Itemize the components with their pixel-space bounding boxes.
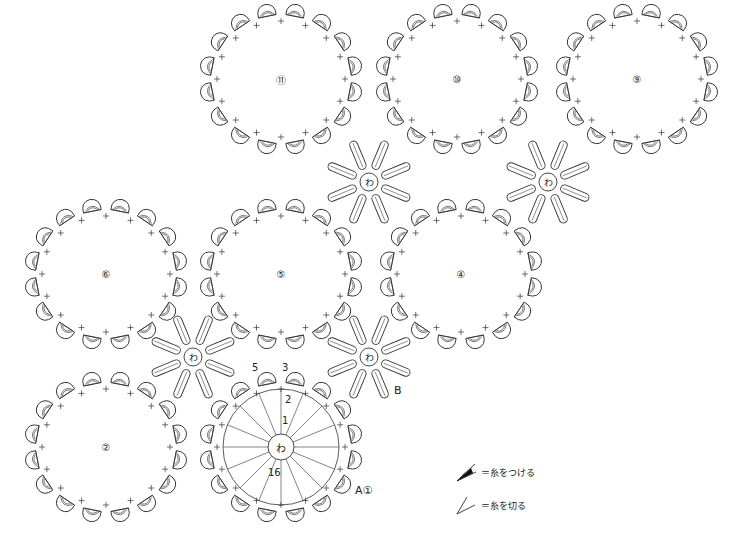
legend-cut-yarn: ＝糸を切る [455,495,526,515]
motif-label-2: ② [102,442,111,453]
motif-label-5: ⑤ [277,269,286,280]
motif-label-9: ⑨ [633,74,642,85]
round-number-1: 1 [282,415,288,426]
legend-join-yarn-text: ＝糸をつける [481,466,535,479]
round-number-2: 2 [285,394,291,405]
cut-yarn-icon [455,495,477,515]
ring-label: わ [189,351,198,364]
ring-label: わ [365,351,374,364]
motif-label-11: ⑪ [276,72,286,87]
annotation-b: B [394,384,402,397]
round-number-16: 16 [268,467,281,478]
ring-label: わ [365,176,374,189]
legend-cut-yarn-text: ＝糸を切る [481,499,526,512]
motif-label-10: ⑩ [453,74,462,85]
motif-label-1: わ [276,440,286,455]
legend-join-yarn: ＝糸をつける [455,462,535,482]
annotation-a: A① [355,484,372,497]
join-yarn-icon [455,462,477,482]
motif-label-4: ④ [457,269,466,280]
ring-label: わ [544,176,553,189]
round-number-5: 5 [252,362,258,373]
motif-label-6: ⑥ [102,269,111,280]
round-number-3: 3 [282,362,288,373]
